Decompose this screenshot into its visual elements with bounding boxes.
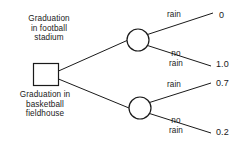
branch-label-norain-basketball: no rain bbox=[159, 116, 193, 135]
decision-node-label-basketball: Graduation in basketball fieldhouse bbox=[0, 90, 90, 119]
chance-circle-basketball bbox=[129, 97, 151, 119]
edge-to-football-chance bbox=[59, 41, 128, 72]
outcome-value-rain-football: 0 bbox=[219, 11, 247, 21]
outcome-value-norain-basketball: 0.2 bbox=[216, 128, 244, 138]
decision-tree-diagram: Graduation in football stadium Graduatio… bbox=[0, 0, 249, 155]
chance-circle-football bbox=[127, 29, 149, 51]
outcome-value-norain-football: 1.0 bbox=[216, 60, 244, 70]
branch-label-rain-football: rain bbox=[157, 10, 191, 20]
decision-node-label-football: Graduation in football stadium bbox=[4, 14, 94, 43]
branch-label-norain-football: no rain bbox=[159, 49, 193, 68]
branch-label-rain-basketball: rain bbox=[157, 80, 191, 90]
decision-square-node bbox=[34, 64, 59, 86]
outcome-value-rain-basketball: 0.7 bbox=[216, 79, 244, 89]
